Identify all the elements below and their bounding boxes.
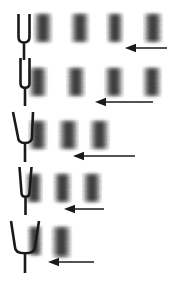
fringe-row xyxy=(0,60,188,112)
fringe-row xyxy=(0,166,188,220)
fringe-row xyxy=(0,220,188,286)
fringe-row xyxy=(0,8,188,60)
fringe-row xyxy=(0,112,188,166)
tuning-fork-fringe-figure xyxy=(0,0,188,286)
